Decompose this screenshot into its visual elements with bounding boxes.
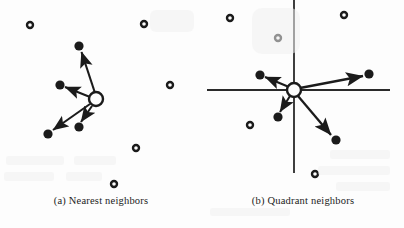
unselected-point [341, 12, 347, 18]
arrow-to-quadrant-upper-right [300, 76, 363, 88]
unselected-point [111, 181, 117, 187]
arrow-group-b [265, 76, 363, 135]
figure-container: (a) Nearest neighbors [0, 0, 404, 228]
panel-a-caption: (a) Nearest neighbors [0, 194, 202, 208]
panel-b-diagram [202, 0, 404, 195]
unselected-point [133, 145, 139, 151]
arrow-to-quadrant-upper-left [265, 77, 289, 87]
selected-points-a [43, 41, 83, 138]
selected-point [255, 70, 264, 79]
panel-quadrant-neighbors: (b) Quadrant neighbors [202, 0, 404, 228]
unselected-point [247, 122, 253, 128]
unselected-point [275, 35, 281, 41]
arrow-to-quadrant-lower-right [298, 96, 331, 135]
unselected-point [141, 21, 147, 27]
center-node-b [287, 83, 301, 97]
panel-nearest-neighbors: (a) Nearest neighbors [0, 0, 202, 228]
selected-point [43, 129, 52, 138]
panel-b-caption: (b) Quadrant neighbors [202, 194, 404, 208]
unselected-point [27, 22, 33, 28]
center-node-a [89, 92, 103, 106]
selected-point [55, 80, 64, 89]
selected-point [273, 112, 282, 121]
unselected-points-b [227, 12, 347, 177]
selected-point [74, 122, 83, 131]
panel-a-diagram [0, 0, 202, 195]
unselected-point [227, 15, 233, 21]
arrow-to-quadrant-lower-left [280, 96, 290, 112]
selected-point [331, 135, 340, 144]
selected-point [74, 41, 83, 50]
arrow-to-neighbor-1 [82, 52, 96, 93]
selected-point [364, 69, 373, 78]
arrow-to-neighbor-2 [65, 87, 90, 97]
arrow-group-a [53, 52, 95, 130]
unselected-point [312, 171, 318, 177]
unselected-point [167, 82, 173, 88]
